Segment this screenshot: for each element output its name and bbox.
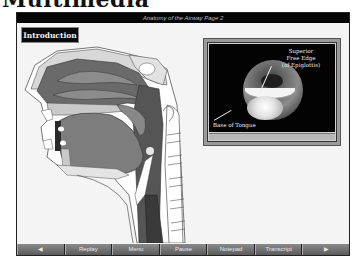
menu-button[interactable]: Menu	[112, 244, 160, 255]
video-progress-bar[interactable]	[209, 133, 335, 140]
tongue-base-highlight	[247, 96, 283, 120]
page-heading: Multimedia	[2, 0, 150, 12]
caption-base-of-tongue: Base of Tongue	[213, 122, 256, 128]
next-button[interactable]: ▶	[302, 244, 349, 255]
caption-line-2: Free Edge	[271, 55, 331, 62]
endoscopic-view: Superior Free Edge (of Epiglottis) Base …	[209, 44, 335, 132]
endoscopy-video-panel: Superior Free Edge (of Epiglottis) Base …	[203, 38, 341, 146]
navigation-bar: ◀ Replay Menu Pause Notepad Transcript ▶	[17, 244, 349, 255]
airway-anatomy-illustration	[17, 45, 209, 243]
caption-line-1: Superior	[271, 48, 331, 55]
section-label-introduction: Introduction	[21, 27, 79, 43]
arrow-right-icon: ▶	[324, 246, 329, 252]
app-window: Anatomy of the Airway Page 2 Introductio…	[16, 12, 350, 256]
caption-line-3: (of Epiglottis)	[271, 62, 331, 69]
window-title: Anatomy of the Airway Page 2	[17, 13, 349, 23]
notepad-button[interactable]: Notepad	[207, 244, 255, 255]
replay-button[interactable]: Replay	[65, 244, 113, 255]
arrow-left-icon: ◀	[38, 246, 43, 252]
tongue-pointer-line	[214, 110, 232, 121]
video-frame: Superior Free Edge (of Epiglottis) Base …	[207, 42, 337, 142]
transcript-button[interactable]: Transcript	[255, 244, 303, 255]
pause-button[interactable]: Pause	[160, 244, 208, 255]
caption-epiglottis: Superior Free Edge (of Epiglottis)	[271, 48, 331, 69]
previous-button[interactable]: ◀	[17, 244, 65, 255]
